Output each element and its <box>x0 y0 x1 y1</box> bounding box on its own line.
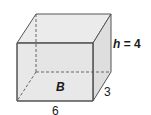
base-label: B <box>56 81 65 93</box>
height-label: h = 4 <box>113 38 141 50</box>
width-label: 6 <box>52 105 59 115</box>
prism-diagram <box>0 0 151 115</box>
depth-label: 3 <box>104 86 111 98</box>
height-value: = 4 <box>120 37 140 51</box>
